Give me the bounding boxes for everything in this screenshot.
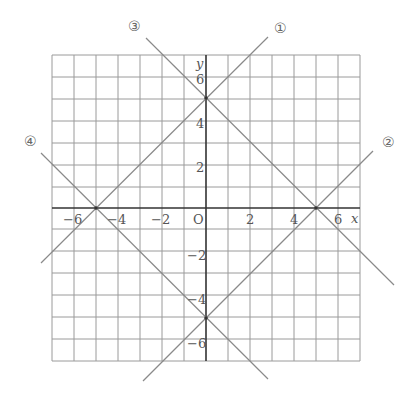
line-4-label: ④: [24, 133, 37, 149]
y-tick-label: −4: [187, 292, 206, 307]
origin-label: O: [193, 212, 204, 227]
y-tick-label: 6: [196, 72, 204, 87]
x-tick-label: −4: [107, 212, 126, 227]
line-3-label: ③: [128, 18, 141, 34]
intersection-point: [204, 316, 208, 320]
intersection-point: [204, 96, 208, 100]
y-tick-label: −6: [187, 336, 206, 351]
coordinate-plane-figure: ① ② ③ ④ y x O −6 −4 −2 2 4 6 6 4 2 −2 −4…: [0, 0, 416, 402]
line-2-label: ②: [382, 134, 395, 150]
y-tick-label: 4: [196, 116, 204, 131]
x-tick-label: −2: [151, 212, 170, 227]
intersection-point: [94, 206, 98, 210]
line-3: [146, 38, 394, 285]
x-tick-label: 2: [246, 212, 254, 227]
line-1-label: ①: [274, 20, 287, 36]
intersection-point: [314, 206, 318, 210]
y-axis-label: y: [195, 56, 204, 71]
y-tick-label: 2: [196, 160, 204, 175]
y-tick-label: −2: [187, 248, 206, 263]
x-tick-label: 4: [290, 212, 298, 227]
x-axis-label: x: [351, 211, 359, 226]
x-tick-label: 6: [334, 212, 342, 227]
x-tick-label: −6: [63, 212, 82, 227]
